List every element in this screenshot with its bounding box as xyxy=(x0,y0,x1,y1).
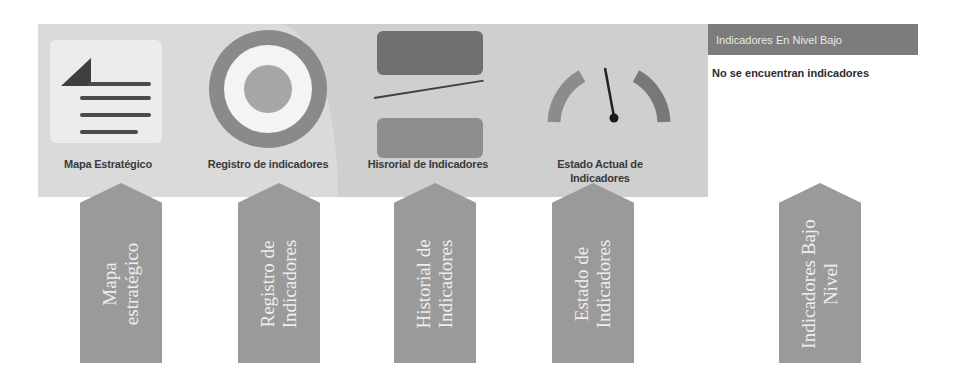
arrow-label-registro: Registro de Indicadores xyxy=(238,183,320,363)
empty-state-message: No se encuentran indicadores xyxy=(712,67,869,79)
arrow-label-estado: Estado de Indicadores xyxy=(552,183,634,363)
document-icon xyxy=(50,40,162,143)
tile-registro-indicadores[interactable]: Registro de indicadores xyxy=(196,24,340,197)
arrow-label-historial: Historial de Indicadores xyxy=(394,183,476,363)
arrow-label-mapa: Mapa estratégico xyxy=(80,183,162,363)
target-icon xyxy=(209,30,327,148)
tile-label: Mapa Estratégico xyxy=(38,157,178,171)
low-level-widget-header: Indicadores En Nivel Bajo xyxy=(708,24,918,55)
tile-historial-indicadores[interactable]: Hisrorial de Indicadores xyxy=(358,24,498,197)
tile-label: Registro de indicadores xyxy=(196,157,340,171)
gauge-icon xyxy=(546,64,672,128)
history-chart-icon xyxy=(373,24,487,164)
tile-estado-actual[interactable]: Estado Actual de Indicadores xyxy=(520,24,680,197)
tile-label: Hisrorial de Indicadores xyxy=(358,157,498,171)
menu-panel: Mapa Estratégico Registro de indicadores… xyxy=(38,24,708,197)
arrow-label-bajo-nivel: Indicadores Bajo Nivel xyxy=(779,183,861,363)
tile-label: Estado Actual de Indicadores xyxy=(520,157,680,185)
tile-mapa-estrategico[interactable]: Mapa Estratégico xyxy=(38,24,178,197)
